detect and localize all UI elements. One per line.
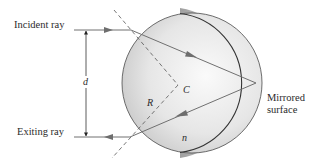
mirrored-surface-label-line2: surface [267, 104, 298, 115]
sphere [122, 13, 262, 153]
center-label-C: C [183, 84, 190, 95]
incident-ray-arrow-icon [104, 27, 113, 33]
radius-label-R: R [146, 97, 153, 108]
mirrored-surface-label-line1: Mirrored [267, 92, 306, 103]
refraction-sphere-diagram: Incident ray Exiting ray d R C n Mirrore… [0, 0, 322, 162]
exiting-ray-arrow-icon [104, 134, 113, 140]
index-label-n: n [182, 132, 187, 143]
incident-ray-label: Incident ray [14, 19, 65, 30]
exiting-ray-label: Exiting ray [17, 126, 65, 137]
